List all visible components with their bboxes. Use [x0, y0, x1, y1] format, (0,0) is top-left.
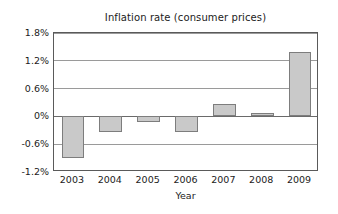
bar-2007 [213, 104, 236, 117]
x-axis-tick-labels: 2003200420052006200720082009 [53, 174, 318, 188]
x-axis-tick-label: 2003 [60, 174, 84, 185]
x-axis-tick-label: 2009 [287, 174, 311, 185]
gridline [54, 60, 317, 61]
x-axis-title: Year [53, 190, 318, 201]
bar-2008 [251, 113, 274, 116]
bar-2004 [99, 116, 122, 131]
y-axis-tick-labels: 1.8%1.2%0.6%0%-0.6%-1.2% [0, 32, 49, 171]
x-axis-tick-label: 2006 [173, 174, 197, 185]
chart-figure: Inflation rate (consumer prices) 1.8%1.2… [0, 0, 338, 214]
y-axis-tick-label: 1.8% [1, 27, 49, 38]
y-axis-tick-label: 1.2% [1, 54, 49, 65]
x-axis-tick-label: 2005 [136, 174, 160, 185]
x-axis-tick-label: 2008 [249, 174, 273, 185]
gridline [54, 144, 317, 145]
plot-area [53, 32, 318, 171]
y-axis-tick-label: -1.2% [1, 166, 49, 177]
y-axis-tick-label: -0.6% [1, 138, 49, 149]
bar-2009 [289, 52, 312, 117]
x-axis-tick-label: 2004 [98, 174, 122, 185]
gridline [54, 33, 317, 34]
y-axis-tick-label: 0% [1, 110, 49, 121]
chart-title: Inflation rate (consumer prices) [53, 12, 318, 23]
bar-2006 [175, 116, 198, 131]
x-axis-tick-label: 2007 [211, 174, 235, 185]
bar-2003 [62, 116, 85, 158]
y-axis-tick-label: 0.6% [1, 82, 49, 93]
gridline [54, 88, 317, 89]
bar-2005 [137, 116, 160, 122]
